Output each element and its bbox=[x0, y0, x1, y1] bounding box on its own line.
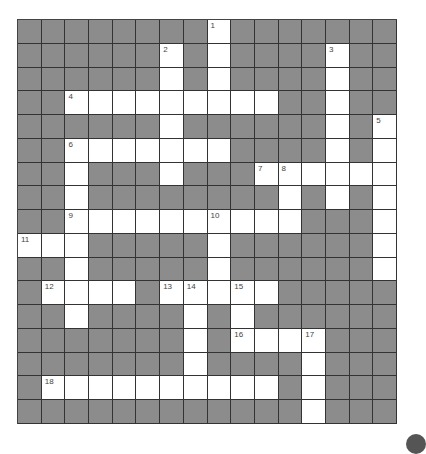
grid-cell-open[interactable] bbox=[160, 139, 184, 163]
grid-cell-open[interactable] bbox=[65, 305, 89, 329]
grid-cell-open[interactable] bbox=[65, 234, 89, 258]
grid-cell-open[interactable] bbox=[255, 210, 279, 234]
grid-cell-open[interactable] bbox=[231, 305, 255, 329]
grid-cell-open[interactable] bbox=[113, 139, 137, 163]
grid-cell-open[interactable] bbox=[136, 91, 160, 115]
grid-cell-block bbox=[184, 115, 208, 139]
grid-cell-open[interactable] bbox=[208, 281, 232, 305]
grid-cell-open[interactable] bbox=[160, 163, 184, 187]
grid-cell-open[interactable] bbox=[231, 91, 255, 115]
grid-cell-open[interactable] bbox=[373, 139, 397, 163]
grid-cell-open[interactable] bbox=[279, 210, 303, 234]
grid-cell-block bbox=[208, 163, 232, 187]
grid-cell-open[interactable] bbox=[279, 329, 303, 353]
grid-cell-open[interactable] bbox=[65, 258, 89, 282]
grid-cell-open[interactable] bbox=[65, 163, 89, 187]
grid-cell-block bbox=[302, 186, 326, 210]
grid-cell-open[interactable] bbox=[184, 210, 208, 234]
grid-cell-open[interactable] bbox=[326, 115, 350, 139]
grid-cell-open[interactable] bbox=[255, 376, 279, 400]
grid-cell-open[interactable] bbox=[160, 68, 184, 92]
grid-cell-open[interactable]: 1 bbox=[208, 20, 232, 44]
grid-cell-open[interactable] bbox=[136, 210, 160, 234]
grid-cell-open[interactable] bbox=[184, 353, 208, 377]
grid-cell-open[interactable] bbox=[89, 376, 113, 400]
grid-cell-open[interactable]: 4 bbox=[65, 91, 89, 115]
grid-cell-open[interactable] bbox=[326, 139, 350, 163]
grid-cell-block bbox=[160, 353, 184, 377]
grid-cell-open[interactable] bbox=[160, 210, 184, 234]
grid-cell-open[interactable] bbox=[160, 91, 184, 115]
grid-cell-open[interactable] bbox=[208, 68, 232, 92]
grid-cell-open[interactable] bbox=[208, 376, 232, 400]
grid-cell-open[interactable] bbox=[231, 376, 255, 400]
grid-cell-open[interactable] bbox=[255, 91, 279, 115]
grid-cell-open[interactable]: 14 bbox=[184, 281, 208, 305]
grid-cell-open[interactable]: 17 bbox=[302, 329, 326, 353]
grid-cell-open[interactable]: 9 bbox=[65, 210, 89, 234]
grid-cell-open[interactable] bbox=[184, 376, 208, 400]
grid-cell-open[interactable] bbox=[373, 163, 397, 187]
grid-cell-open[interactable] bbox=[89, 281, 113, 305]
grid-cell-open[interactable]: 15 bbox=[231, 281, 255, 305]
grid-cell-open[interactable] bbox=[160, 115, 184, 139]
grid-cell-open[interactable]: 6 bbox=[65, 139, 89, 163]
grid-cell-block bbox=[136, 353, 160, 377]
grid-cell-open[interactable] bbox=[373, 234, 397, 258]
grid-cell-open[interactable] bbox=[373, 258, 397, 282]
grid-cell-open[interactable]: 13 bbox=[160, 281, 184, 305]
grid-cell-open[interactable]: 10 bbox=[208, 210, 232, 234]
grid-cell-open[interactable] bbox=[113, 210, 137, 234]
grid-cell-open[interactable] bbox=[208, 139, 232, 163]
grid-cell-open[interactable]: 18 bbox=[42, 376, 66, 400]
grid-cell-open[interactable] bbox=[255, 329, 279, 353]
grid-cell-open[interactable]: 12 bbox=[42, 281, 66, 305]
grid-cell-open[interactable] bbox=[184, 139, 208, 163]
grid-cell-open[interactable] bbox=[373, 186, 397, 210]
grid-cell-open[interactable] bbox=[208, 91, 232, 115]
grid-cell-open[interactable]: 16 bbox=[231, 329, 255, 353]
grid-cell-open[interactable] bbox=[184, 329, 208, 353]
grid-cell-open[interactable] bbox=[326, 91, 350, 115]
grid-cell-open[interactable] bbox=[89, 139, 113, 163]
grid-cell-open[interactable] bbox=[89, 210, 113, 234]
grid-cell-open[interactable] bbox=[326, 186, 350, 210]
grid-cell-open[interactable] bbox=[302, 400, 326, 424]
grid-cell-block bbox=[231, 115, 255, 139]
grid-cell-open[interactable]: 8 bbox=[279, 163, 303, 187]
grid-cell-open[interactable] bbox=[302, 376, 326, 400]
grid-cell-open[interactable] bbox=[302, 353, 326, 377]
grid-cell-open[interactable] bbox=[326, 68, 350, 92]
grid-cell-open[interactable] bbox=[279, 186, 303, 210]
grid-cell-open[interactable] bbox=[113, 376, 137, 400]
grid-cell-open[interactable]: 2 bbox=[160, 44, 184, 68]
grid-cell-open[interactable]: 5 bbox=[373, 115, 397, 139]
grid-cell-block bbox=[231, 234, 255, 258]
grid-cell-open[interactable] bbox=[113, 91, 137, 115]
grid-cell-open[interactable] bbox=[184, 305, 208, 329]
grid-cell-open[interactable] bbox=[326, 163, 350, 187]
grid-cell-open[interactable] bbox=[113, 281, 137, 305]
grid-cell-open[interactable] bbox=[42, 234, 66, 258]
grid-cell-open[interactable] bbox=[255, 281, 279, 305]
grid-cell-open[interactable] bbox=[302, 163, 326, 187]
grid-cell-open[interactable] bbox=[350, 163, 374, 187]
grid-cell-open[interactable] bbox=[231, 210, 255, 234]
grid-cell-open[interactable] bbox=[160, 376, 184, 400]
grid-cell-open[interactable] bbox=[65, 281, 89, 305]
grid-cell-open[interactable]: 11 bbox=[18, 234, 42, 258]
grid-cell-open[interactable] bbox=[136, 376, 160, 400]
grid-cell-open[interactable] bbox=[208, 258, 232, 282]
grid-cell-block bbox=[350, 186, 374, 210]
grid-cell-open[interactable] bbox=[65, 376, 89, 400]
grid-cell-open[interactable] bbox=[184, 91, 208, 115]
grid-cell-open[interactable]: 3 bbox=[326, 44, 350, 68]
grid-cell-open[interactable] bbox=[136, 139, 160, 163]
grid-cell-block bbox=[350, 305, 374, 329]
grid-cell-open[interactable] bbox=[65, 186, 89, 210]
grid-cell-open[interactable]: 7 bbox=[255, 163, 279, 187]
grid-cell-open[interactable] bbox=[208, 44, 232, 68]
grid-cell-open[interactable] bbox=[89, 91, 113, 115]
grid-cell-open[interactable] bbox=[373, 210, 397, 234]
grid-cell-open[interactable] bbox=[208, 234, 232, 258]
